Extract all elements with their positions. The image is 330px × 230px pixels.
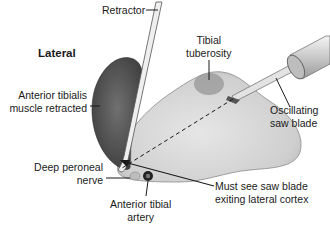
label-line: Oscillating [270,104,318,117]
label-line: exiting lateral cortex [215,193,308,206]
label-oscillating-saw: Oscillating saw blade [270,104,318,129]
label-tibial-tuberosity: Tibial tuberosity [186,34,232,59]
deep-peroneal-nerve [130,172,140,180]
saw-handle [284,36,330,82]
label-line: Must see saw blade [215,180,308,193]
label-anterior-tibial-artery: Anterior tibial artery [110,198,171,223]
label-line: muscle retracted [9,102,87,115]
label-line: saw blade [270,117,318,130]
label-must-see: Must see saw blade exiting lateral corte… [215,180,308,205]
label-line: nerve [34,174,103,187]
leader-saw [276,78,290,107]
artery-lumen [146,174,150,178]
leader-artery [146,181,148,196]
label-line: Deep peroneal [34,161,103,174]
label-line: tuberosity [186,47,232,60]
label-line: artery [110,211,171,224]
label-anterior-tibialis: Anterior tibialis muscle retracted [9,89,87,114]
label-line: Tibial [186,34,232,47]
label-line: Anterior tibialis [9,89,87,102]
label-lateral: Lateral [38,47,76,60]
label-line: Anterior tibial [110,198,171,211]
label-deep-peroneal: Deep peroneal nerve [34,161,103,186]
label-retractor: Retractor [102,4,145,17]
